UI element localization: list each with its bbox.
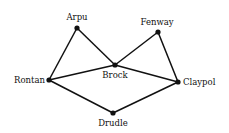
node-label-arpu: Arpu	[65, 12, 88, 22]
edge-rontan-drudle	[49, 80, 113, 113]
edge-brock-fenway	[115, 32, 158, 65]
node-claypol	[175, 79, 180, 84]
node-label-rontan: Rontan	[14, 75, 45, 85]
node-label-brock: Brock	[102, 70, 128, 80]
node-label-claypol: Claypol	[183, 77, 216, 87]
edge-arpu-brock	[77, 28, 115, 65]
node-brock	[112, 62, 117, 67]
node-rontan	[46, 77, 51, 82]
node-label-fenway: Fenway	[140, 17, 173, 27]
node-label-drudle: Drudle	[98, 118, 128, 128]
label-layer: ArpuFenwayBrockRontanClaypolDrudle	[14, 12, 216, 128]
edge-drudle-claypol	[113, 82, 178, 113]
edge-arpu-rontan	[49, 28, 77, 80]
node-drudle	[110, 110, 115, 115]
edge-fenway-claypol	[158, 32, 178, 82]
node-fenway	[155, 29, 160, 34]
node-arpu	[74, 25, 79, 30]
network-graph: ArpuFenwayBrockRontanClaypolDrudle	[0, 0, 229, 133]
